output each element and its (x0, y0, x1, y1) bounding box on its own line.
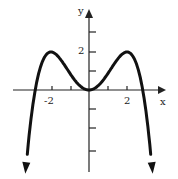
graph (0, 0, 178, 179)
x-axis-label: x (160, 97, 166, 107)
left-arrow-icon (22, 162, 30, 174)
y-axis-label: y (78, 6, 84, 16)
right-arrow-icon (148, 162, 156, 174)
x-tick-neg2: -2 (44, 96, 54, 106)
x-tick-2: 2 (124, 96, 130, 106)
y-tick-2: 2 (78, 46, 84, 56)
y-axis-arrow-icon (85, 9, 93, 18)
x-axis-arrow-icon (158, 86, 166, 94)
